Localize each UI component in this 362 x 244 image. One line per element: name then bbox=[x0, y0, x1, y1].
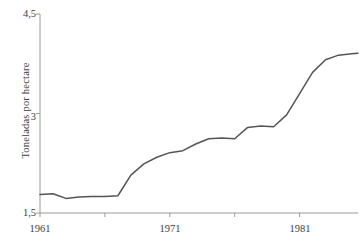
x-axis-ticks bbox=[40, 213, 300, 217]
chart-container: Toneladas por hectare 4,5 3 1,5 1961 197… bbox=[0, 0, 362, 244]
data-series-line bbox=[40, 53, 358, 198]
chart-plot-area bbox=[0, 0, 362, 244]
y-axis-ticks bbox=[36, 14, 40, 213]
